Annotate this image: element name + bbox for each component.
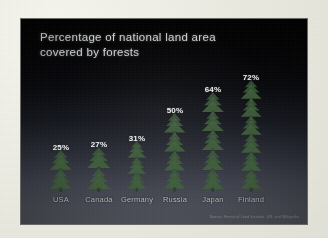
presentation-slide: Percentage of national land area covered… (21, 19, 307, 224)
tree-stack (155, 117, 195, 192)
bar-value-label: 25% (41, 143, 81, 152)
pine-tree-icon (83, 167, 114, 193)
tree-stack (193, 96, 233, 192)
pine-tree-icon (124, 171, 150, 192)
tree-stack (117, 145, 157, 192)
bar-value-label: 27% (79, 140, 119, 149)
pine-tree-icon (46, 168, 76, 192)
photograph-frame: Percentage of national land area covered… (0, 0, 328, 238)
bar-category-label: Finland (227, 195, 275, 204)
bar-value-label: 50% (155, 106, 195, 115)
forest-coverage-bar-chart: 25%USA27%Canada31%Germany50%Russia64%Jap… (21, 19, 307, 224)
tree-stack (79, 151, 119, 192)
pine-tree-icon (198, 168, 228, 192)
bar-value-label: 64% (193, 85, 233, 94)
tree-stack (231, 84, 271, 192)
bar-value-label: 72% (231, 73, 271, 82)
source-credit: Source: Forest of Land Institute, UN, an… (209, 215, 299, 219)
pine-tree-icon (160, 168, 189, 192)
bar-value-label: 31% (117, 134, 157, 143)
pine-tree-icon (237, 169, 265, 192)
tree-stack (41, 154, 81, 192)
